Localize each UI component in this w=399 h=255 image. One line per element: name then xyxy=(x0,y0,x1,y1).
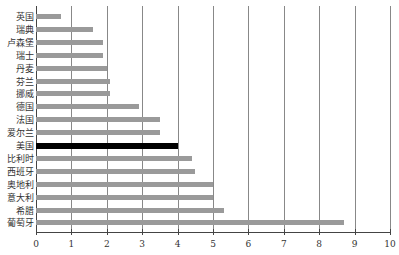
category-label: 奥地利 xyxy=(7,180,34,190)
category-label: 英国 xyxy=(16,12,34,22)
bar xyxy=(36,143,178,149)
x-tick-label: 6 xyxy=(238,239,258,249)
x-tick xyxy=(36,229,37,235)
x-tick-label: 10 xyxy=(380,239,399,249)
bar xyxy=(36,182,213,187)
category-label: 美国 xyxy=(16,141,34,151)
bar xyxy=(36,66,107,71)
bar xyxy=(36,156,192,161)
category-label: 比利时 xyxy=(7,154,34,164)
x-tick xyxy=(390,229,391,235)
x-tick xyxy=(142,229,143,235)
category-label: 西班牙 xyxy=(7,167,34,177)
x-tick-label: 9 xyxy=(345,239,365,249)
bar xyxy=(36,195,213,200)
category-label: 德国 xyxy=(16,102,34,112)
x-tick xyxy=(248,229,249,235)
gridline xyxy=(355,6,356,232)
gridline xyxy=(284,6,285,232)
gridline xyxy=(248,6,249,232)
x-tick xyxy=(178,229,179,235)
x-tick-label: 4 xyxy=(168,239,188,249)
x-tick-label: 8 xyxy=(309,239,329,249)
bar xyxy=(36,53,103,58)
x-tick-label: 5 xyxy=(203,239,223,249)
category-label: 芬兰 xyxy=(16,77,34,87)
x-tick-label: 2 xyxy=(97,239,117,249)
category-label: 卢森堡 xyxy=(7,38,34,48)
x-tick xyxy=(284,229,285,235)
category-label: 法国 xyxy=(16,115,34,125)
x-tick-label: 7 xyxy=(274,239,294,249)
gridline xyxy=(213,6,214,232)
bar xyxy=(36,208,224,213)
x-tick xyxy=(355,229,356,235)
gridline xyxy=(319,6,320,232)
bar xyxy=(36,220,344,225)
x-tick xyxy=(213,229,214,235)
bar xyxy=(36,169,195,174)
bar xyxy=(36,104,139,109)
bar xyxy=(36,91,110,96)
category-label: 意大利 xyxy=(7,193,34,203)
category-label: 瑞典 xyxy=(16,25,34,35)
bar xyxy=(36,27,93,32)
bar xyxy=(36,130,160,135)
bar xyxy=(36,79,110,84)
bar xyxy=(36,117,160,122)
x-tick-label: 3 xyxy=(132,239,152,249)
bar xyxy=(36,40,103,45)
x-tick xyxy=(107,229,108,235)
category-label: 瑞士 xyxy=(16,51,34,61)
category-label: 丹麦 xyxy=(16,64,34,74)
category-label: 希腊 xyxy=(16,206,34,216)
x-tick xyxy=(319,229,320,235)
bar xyxy=(36,14,61,19)
category-label: 挪威 xyxy=(16,89,34,99)
x-tick-label: 0 xyxy=(26,239,46,249)
category-label: 葡萄牙 xyxy=(7,218,34,228)
x-tick xyxy=(71,229,72,235)
gridline xyxy=(390,6,391,232)
x-tick-label: 1 xyxy=(61,239,81,249)
horizontal-bar-chart: 英国瑞典卢森堡瑞士丹麦芬兰挪威德国法国爱尔兰美国比利时西班牙奥地利意大利希腊葡萄… xyxy=(0,0,399,255)
category-label: 爱尔兰 xyxy=(7,128,34,138)
